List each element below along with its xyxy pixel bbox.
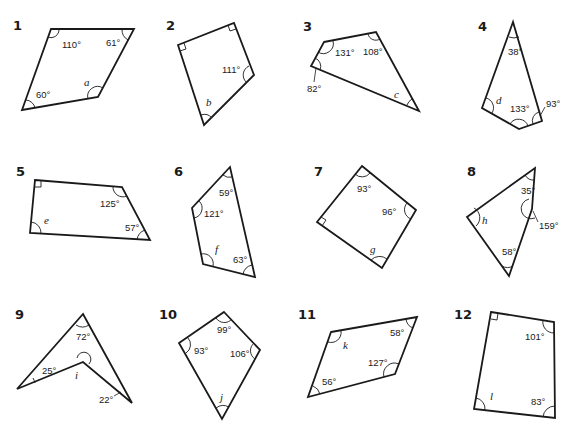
problem-number: 11 — [298, 307, 316, 322]
angle-label: 106° — [230, 348, 250, 359]
angle-label: 59° — [219, 187, 234, 198]
unknown-variable: i — [75, 369, 78, 381]
angle-label: 61° — [106, 37, 121, 48]
problem-11: 11 58° 127° 56° k — [298, 307, 417, 397]
problem-number: 4 — [478, 19, 487, 34]
quadrilateral-shape — [317, 166, 416, 268]
angle-label: 25° — [42, 365, 57, 376]
angle-arc — [223, 175, 232, 177]
angle-arc — [476, 398, 485, 410]
angle-arc — [406, 319, 413, 328]
quadrilateral-shape — [178, 23, 254, 125]
problem-9: 9 72° 25° 22° i — [15, 307, 132, 405]
angle-label: 58° — [390, 327, 405, 338]
problem-number: 5 — [16, 164, 25, 179]
problem-4: 4 38° 133° 93° d — [478, 19, 561, 129]
angle-label: 127° — [368, 357, 388, 368]
problem-10: 10 99° 93° 106° j — [159, 307, 260, 419]
angle-label: 93° — [194, 345, 209, 356]
problem-12: 12 101° 83° l — [454, 307, 555, 418]
angle-arc — [216, 406, 229, 408]
angle-label: 101° — [525, 331, 545, 342]
worksheet-canvas: 1 110° 61° 60° a 2 111° b 3 131° 108° 82… — [0, 0, 573, 434]
leader-line — [540, 107, 545, 116]
problem-number: 2 — [166, 18, 175, 33]
problem-7: 7 93° 96° g — [314, 164, 416, 268]
quadrilateral-shape — [311, 32, 419, 111]
angle-label: 125° — [100, 198, 120, 209]
problem-number: 9 — [15, 307, 24, 322]
angle-label: 82° — [307, 83, 322, 94]
angle-label: 121° — [204, 208, 224, 219]
angle-arc — [543, 406, 555, 417]
angle-label: 72° — [76, 331, 91, 342]
unknown-variable: b — [206, 96, 212, 108]
unknown-variable: k — [343, 339, 349, 351]
problem-number: 1 — [13, 18, 22, 33]
problem-number: 10 — [159, 307, 177, 322]
leader-line — [533, 211, 538, 222]
problem-number: 3 — [303, 19, 312, 34]
quadrilateral-shape — [17, 314, 132, 403]
unknown-variable: h — [482, 214, 488, 226]
angle-arc — [355, 173, 370, 177]
angle-label: 60° — [36, 89, 51, 100]
angle-label: 93° — [357, 183, 372, 194]
right-angle-marker — [491, 313, 498, 320]
angle-label: 38° — [508, 46, 523, 57]
angle-label: 108° — [363, 46, 383, 57]
unknown-variable: c — [394, 88, 399, 100]
problem-5: 5 125° 57° e — [16, 164, 150, 240]
angle-arc — [243, 265, 252, 274]
angle-label: 83° — [531, 396, 546, 407]
angle-label: 133° — [510, 103, 530, 114]
angle-arc — [186, 338, 191, 353]
unknown-variable: l — [490, 390, 493, 402]
angle-label: 96° — [382, 206, 397, 217]
problem-3: 3 131° 108° 82° c — [303, 19, 419, 111]
angle-label: 56° — [322, 376, 337, 387]
angle-label: 58° — [502, 246, 517, 257]
angle-label: 99° — [217, 324, 232, 335]
angle-arc — [407, 99, 412, 105]
angle-label: 35° — [521, 185, 536, 196]
angle-arc — [26, 100, 35, 108]
problem-number: 7 — [314, 164, 323, 179]
angle-label: 110° — [62, 39, 81, 50]
angle-arc — [502, 266, 513, 267]
angle-label: 22° — [99, 394, 114, 405]
unknown-variable: d — [496, 94, 502, 106]
problem-6: 6 59° 121° 63° f — [174, 164, 255, 277]
angle-label: 63° — [233, 254, 248, 265]
problem-number: 8 — [467, 164, 476, 179]
angle-label: 131° — [335, 47, 355, 58]
angle-arc — [371, 256, 387, 260]
leader-line — [314, 68, 316, 82]
problem-8: 8 35° 159° 58° h — [467, 164, 559, 276]
unknown-variable: e — [44, 214, 49, 226]
problem-2: 2 111° b — [166, 18, 254, 125]
angle-label: 93° — [546, 98, 561, 109]
angle-label: 159° — [539, 220, 559, 231]
angle-arc — [122, 29, 128, 40]
angle-label: 111° — [222, 64, 240, 75]
unknown-variable: a — [84, 76, 90, 88]
angle-arc — [76, 325, 89, 327]
problem-number: 6 — [174, 164, 183, 179]
unknown-variable: j — [218, 391, 223, 403]
angle-arc — [313, 386, 320, 394]
angle-label: 57° — [125, 222, 140, 233]
angle-arc — [250, 343, 255, 359]
problem-1: 1 110° 61° 60° a — [13, 18, 134, 110]
angle-arc — [31, 222, 41, 234]
right-angle-marker — [35, 181, 41, 188]
problem-number: 12 — [454, 307, 472, 322]
angle-arc — [509, 37, 519, 38]
unknown-variable: g — [370, 243, 376, 255]
unknown-variable: f — [215, 243, 220, 255]
